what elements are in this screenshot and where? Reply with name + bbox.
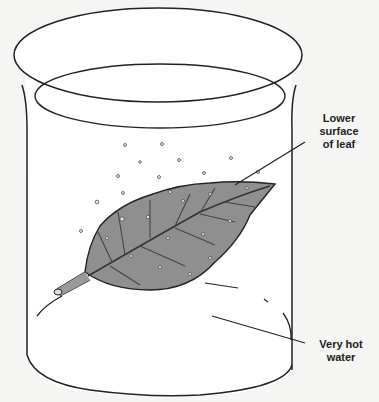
beaker-right-wall bbox=[292, 85, 296, 370]
stalk-end bbox=[54, 289, 62, 295]
diagram-canvas: Lower surface of leaf Very hot water bbox=[0, 0, 379, 402]
hot-water-label: Very hot water bbox=[308, 338, 374, 364]
beaker-left-wall bbox=[22, 85, 27, 355]
leaf-surface-label: Lower surface of leaf bbox=[306, 112, 372, 151]
beaker-rim bbox=[14, 8, 302, 102]
